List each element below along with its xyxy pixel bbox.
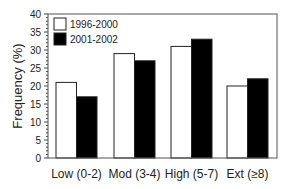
y-tick-label: 5 xyxy=(35,135,41,146)
y-tick-label: 40 xyxy=(30,9,42,20)
x-tick-label: Mod (3-4) xyxy=(108,167,160,181)
bar xyxy=(171,46,192,158)
legend-swatch xyxy=(54,33,66,45)
bar xyxy=(135,61,156,158)
bar xyxy=(192,39,213,158)
legend-swatch xyxy=(54,18,66,30)
x-tick-label: Ext (≥8) xyxy=(227,167,269,181)
y-tick-label: 25 xyxy=(30,63,42,74)
bars xyxy=(56,39,268,158)
x-tick-label: High (5-7) xyxy=(165,167,218,181)
bar xyxy=(56,82,77,158)
legend-label: 2001-2002 xyxy=(70,34,118,45)
y-tick-label: 30 xyxy=(30,45,42,56)
x-tick-label: Low (0-2) xyxy=(51,167,102,181)
legend: 1996-20002001-2002 xyxy=(54,18,118,45)
x-axis-labels: Low (0-2)Mod (3-4)High (5-7)Ext (≥8) xyxy=(51,167,268,181)
y-tick-label: 10 xyxy=(30,117,42,128)
y-axis-label: Frequency (%) xyxy=(10,43,25,128)
y-tick-label: 20 xyxy=(30,81,42,92)
y-tick-label: 35 xyxy=(30,27,42,38)
y-tick-label: 0 xyxy=(35,153,41,164)
y-axis: 0510152025303540 xyxy=(30,9,48,164)
bar xyxy=(77,97,98,158)
bar xyxy=(227,86,248,158)
y-tick-label: 15 xyxy=(30,99,42,110)
bar xyxy=(114,54,135,158)
legend-label: 1996-2000 xyxy=(70,19,118,30)
chart-canvas: 0510152025303540 Low (0-2)Mod (3-4)High … xyxy=(0,0,291,189)
bar xyxy=(248,79,269,158)
frequency-bar-chart: 0510152025303540 Low (0-2)Mod (3-4)High … xyxy=(0,0,291,189)
